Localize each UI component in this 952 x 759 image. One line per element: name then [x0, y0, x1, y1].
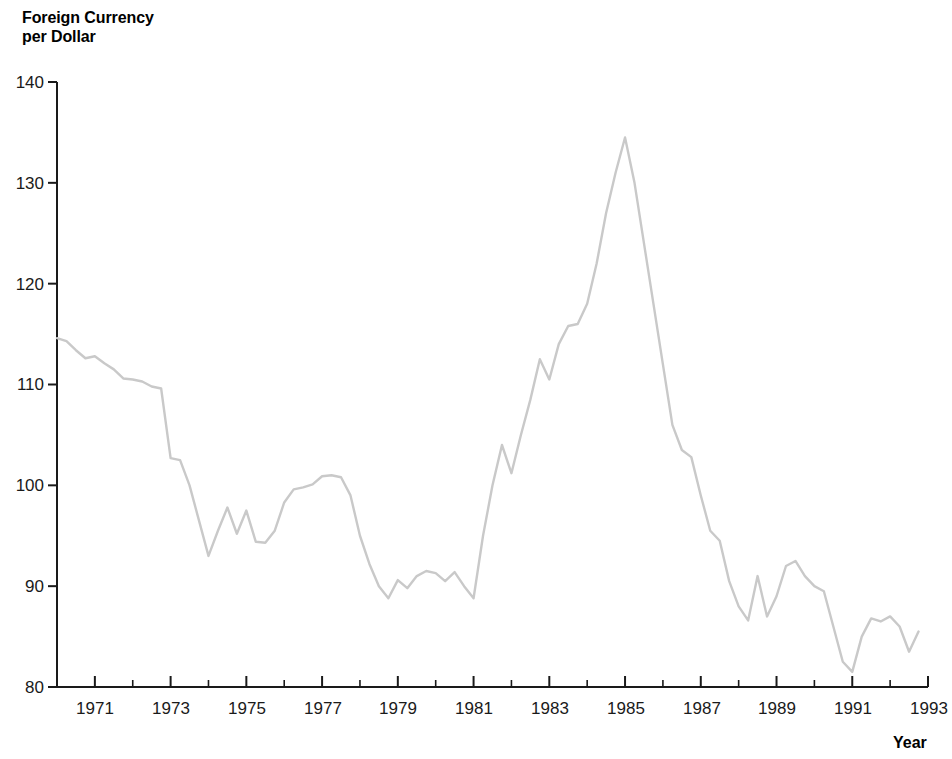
data-series-line: [57, 137, 919, 671]
x-axis-ticks: [95, 676, 928, 687]
y-axis-ticks: [48, 82, 57, 687]
chart-figure: Foreign Currency per Dollar 140 130 120 …: [0, 0, 952, 759]
axis-lines: [57, 82, 928, 687]
plot-area: [0, 0, 952, 759]
